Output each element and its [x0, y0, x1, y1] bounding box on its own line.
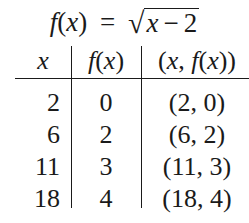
paren-close: ): [78, 7, 87, 37]
radicand-constant: 2: [184, 8, 198, 38]
table-cell-fx: 3: [73, 152, 139, 182]
table-cell-point: (11, 3): [145, 152, 249, 182]
table-cell-point: (2, 0): [145, 88, 249, 118]
paren-open: (: [57, 7, 66, 37]
header-fx: f(x): [73, 46, 139, 76]
radicand-variable: x: [146, 8, 158, 38]
header-point: (x, f(x)): [145, 46, 249, 76]
table-cell-x: 2: [15, 88, 60, 118]
header-divider: [15, 78, 249, 79]
table-cell-x: 6: [15, 120, 60, 150]
header-x: x: [28, 46, 58, 76]
radical-icon: √: [128, 6, 144, 39]
table-cell-point: (18, 4): [145, 184, 249, 214]
table-cell-point: (6, 2): [145, 120, 249, 150]
radicand: x−2: [144, 8, 199, 37]
equals-sign: =: [100, 7, 115, 37]
table-cell-x: 11: [15, 152, 60, 182]
table-cell-x: 18: [15, 184, 60, 214]
table-cell-fx: 2: [73, 120, 139, 150]
column-divider-2: [141, 46, 142, 208]
values-table: x f(x) (x, f(x)) 2 0 (2, 0) 6 2 (6, 2) 1…: [0, 44, 249, 219]
table-cell-fx: 0: [73, 88, 139, 118]
column-divider-1: [71, 46, 72, 208]
table-cell-fx: 4: [73, 184, 139, 214]
function-variable: x: [66, 7, 78, 37]
minus-sign: −: [163, 8, 178, 38]
square-root-expression: √x−2: [128, 4, 199, 39]
function-definition: f(x) = √x−2: [0, 4, 249, 39]
